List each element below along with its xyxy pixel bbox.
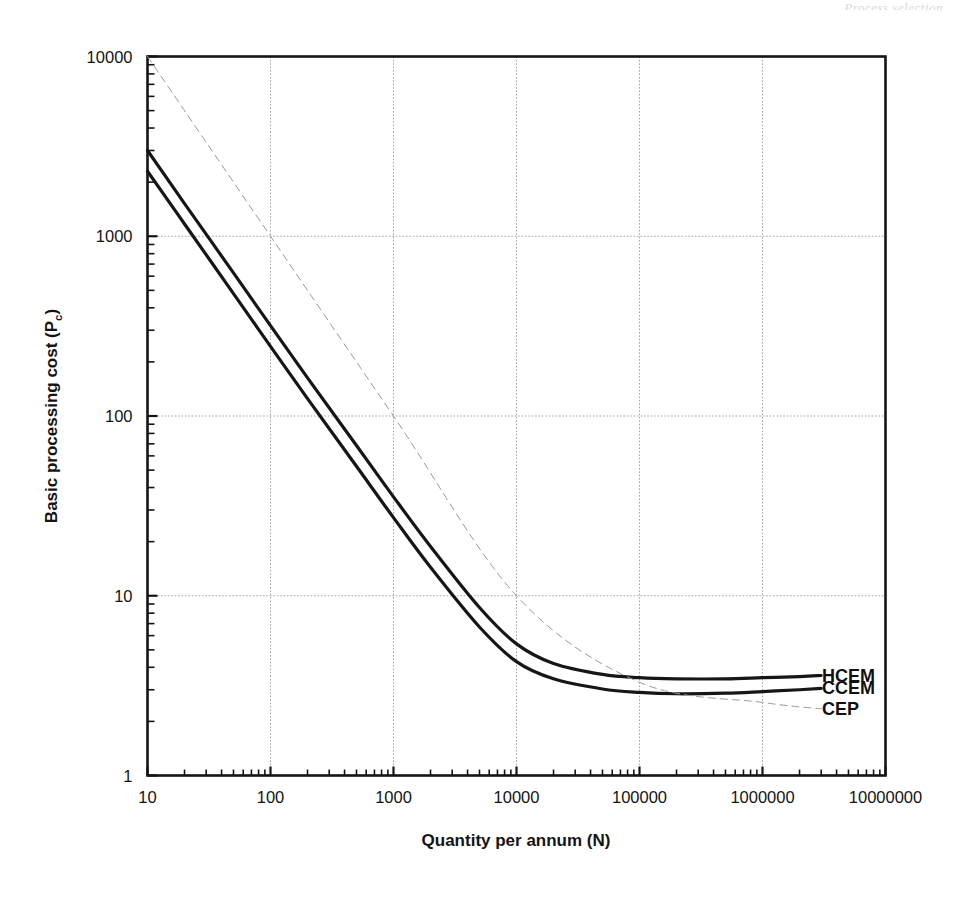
data-series — [148, 57, 822, 709]
scan-page-header: Process selection — [844, 0, 943, 10]
y-tick-label: 100 — [105, 407, 133, 425]
series-labels: HCEMCCEMCEP — [822, 666, 875, 719]
y-tick-label: 10000 — [87, 48, 133, 66]
y-tick-label: 1 — [123, 767, 132, 785]
plot-border — [148, 57, 886, 776]
x-tick-label: 1000 — [375, 788, 412, 806]
series-line-ccem — [148, 171, 822, 694]
scan-page-footer — [38, 888, 938, 900]
y-tick-label: 1000 — [96, 227, 133, 245]
x-tick-label: 10 — [138, 788, 156, 806]
x-axis-title: Quantity per annum (N) — [422, 831, 611, 850]
series-label-ccem: CCEM — [822, 678, 875, 698]
svg-text:Basic processing cost (Pc): Basic processing cost (Pc) — [42, 309, 64, 523]
log-log-line-chart: 10100100010000100000100000010000000 1101… — [0, 0, 971, 902]
y-tick-labels: 110100100010000 — [87, 48, 133, 785]
x-tick-label: 10000000 — [849, 788, 922, 806]
series-label-cep: CEP — [822, 699, 859, 719]
x-tick-label: 100 — [257, 788, 285, 806]
x-tick-label: 10000 — [494, 788, 540, 806]
x-tick-label: 100000 — [612, 788, 667, 806]
y-axis-title: Basic processing cost (Pc) — [42, 309, 64, 523]
gridlines — [148, 57, 886, 776]
x-tick-label: 1000000 — [730, 788, 794, 806]
plot-frame — [148, 57, 886, 776]
y-axis-title-tail: ) — [42, 309, 61, 315]
y-axis-title-base: Basic processing cost (P — [42, 321, 61, 523]
figure-container: Process selection 1010010001000010000010… — [0, 0, 971, 902]
y-tick-label: 10 — [114, 587, 132, 605]
series-line-hcem — [148, 150, 822, 678]
axis-ticks — [148, 57, 886, 776]
x-tick-labels: 10100100010000100000100000010000000 — [138, 788, 922, 806]
